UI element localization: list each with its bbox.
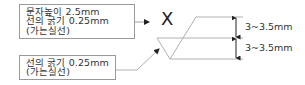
- dimension-label-upper: 3~3.5mm: [245, 21, 293, 32]
- leader-line-2: [116, 49, 159, 70]
- dimension-label-lower: 3~3.5mm: [245, 42, 293, 53]
